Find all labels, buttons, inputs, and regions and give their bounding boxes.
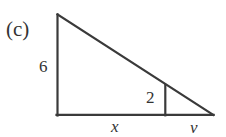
geometry-figure-panel: (c) 6 2 x v [0, 0, 226, 137]
label-left-height: 6 [39, 58, 48, 75]
label-inner-height: 2 [146, 89, 155, 106]
part-label: (c) [6, 19, 29, 40]
label-base-right-segment: v [190, 119, 198, 136]
label-base-left-segment: x [111, 118, 119, 135]
hypotenuse-line [58, 15, 214, 116]
